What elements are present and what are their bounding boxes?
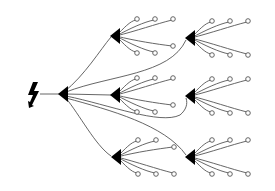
node-n2-fanout <box>191 19 250 58</box>
node-n5-fanout <box>117 138 176 177</box>
edge-root-n3 <box>66 94 111 95</box>
node-n3-arrow-icon <box>110 87 120 103</box>
node-n1-fanout <box>116 17 175 56</box>
node-n6-arrow-icon <box>185 149 195 165</box>
distribution-tree-diagram <box>0 0 275 191</box>
node-n5-arrow-icon <box>111 149 121 165</box>
edge-root-n1 <box>64 37 111 92</box>
node-n4-fanout <box>191 77 250 116</box>
edge-root-n6 <box>66 98 186 155</box>
edge-root-n4 <box>66 96 187 118</box>
lightning-bolt-icon <box>28 82 39 108</box>
node-n1-arrow-icon <box>110 28 120 44</box>
node-n3-fanout <box>116 76 175 115</box>
edge-root-n2 <box>66 40 186 92</box>
node-n2-arrow-icon <box>185 30 195 46</box>
node-n6-fanout <box>191 138 250 177</box>
root-node-arrow-icon <box>58 86 68 102</box>
